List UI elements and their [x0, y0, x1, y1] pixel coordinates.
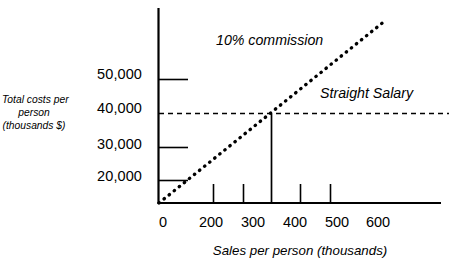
- y-axis-title-line-1: Total costs per: [2, 93, 66, 106]
- x-tick-label-600: 600: [358, 214, 398, 231]
- x-tick-label-300: 300: [233, 214, 273, 231]
- y-tick-label-20000: 20,000: [68, 168, 142, 185]
- x-tick-label-0: 0: [143, 214, 183, 231]
- x-tick-label-500: 500: [317, 214, 357, 231]
- y-axis-title-line-2: person: [2, 106, 66, 119]
- y-tick-label-40000: 40,000: [68, 100, 142, 117]
- y-tick-label-50000: 50,000: [68, 66, 142, 83]
- x-tick-label-200: 200: [191, 214, 231, 231]
- y-axis-title-line-3: (thousands $): [2, 119, 66, 132]
- series-annotation-straight-salary: Straight Salary: [320, 85, 413, 101]
- cost-comparison-chart: Total costs per person (thousands $) 50,…: [0, 0, 459, 280]
- series-annotation-commission: 10% commission: [216, 32, 323, 48]
- x-tick-label-400: 400: [275, 214, 315, 231]
- y-tick-label-30000: 30,000: [68, 136, 142, 153]
- x-axis-title: Sales per person (thousands): [160, 243, 440, 258]
- y-axis-title: Total costs per person (thousands $): [2, 93, 66, 133]
